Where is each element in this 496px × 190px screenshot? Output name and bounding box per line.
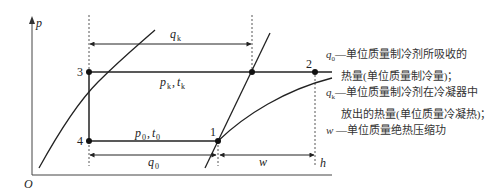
qk-label: q k: [170, 27, 181, 43]
svg-text:,: ,: [147, 126, 150, 140]
state-points: [86, 69, 318, 144]
dashed-guides: [89, 15, 315, 166]
point-3-label: 3: [77, 65, 83, 79]
x-axis-label: h: [320, 156, 326, 170]
svg-text:0: 0: [142, 133, 146, 142]
svg-text:p: p: [134, 126, 141, 140]
point-4-label: 4: [77, 134, 83, 148]
point-2-label: 2: [306, 57, 312, 71]
legend-item-w: w —单位质量绝热压缩功: [326, 122, 496, 139]
legend-item-qk-cont: 放出的热量(单位质量冷凝热)；: [326, 106, 496, 123]
saturated-liquid-curve: [39, 30, 155, 168]
legend-item-q0: q0—单位质量制冷剂所吸收的: [326, 46, 496, 68]
saturated-vapor-curve: [205, 33, 270, 168]
svg-text:k: k: [167, 82, 171, 91]
svg-text:k: k: [177, 34, 181, 43]
origin-label: O: [24, 177, 33, 190]
dimension-arrows: [90, 44, 314, 155]
svg-text:0: 0: [155, 162, 159, 171]
legend: q0—单位质量制冷剂所吸收的 热量(单位质量制冷量)； qk—单位质量制冷剂在冷…: [326, 46, 496, 139]
svg-text:q: q: [170, 27, 176, 41]
svg-text:,: ,: [172, 75, 175, 89]
legend-item-q0-cont: 热量(单位质量制冷量)；: [326, 68, 496, 85]
svg-text:q: q: [148, 155, 154, 169]
y-axis-label: p: [35, 16, 42, 30]
evaporating-line-label: p 0 , t 0: [134, 126, 160, 142]
svg-text:p: p: [159, 75, 166, 89]
svg-text:0: 0: [156, 133, 160, 142]
svg-text:k: k: [181, 82, 185, 91]
point-1-label: 1: [210, 125, 216, 139]
condensing-line-label: p k , t k: [159, 75, 185, 91]
y-axis-arrow-icon: [29, 16, 35, 24]
q0-label: q 0: [148, 155, 159, 171]
w-label: w: [259, 155, 267, 169]
legend-item-qk: qk—单位质量制冷剂在冷凝器中: [326, 84, 496, 106]
